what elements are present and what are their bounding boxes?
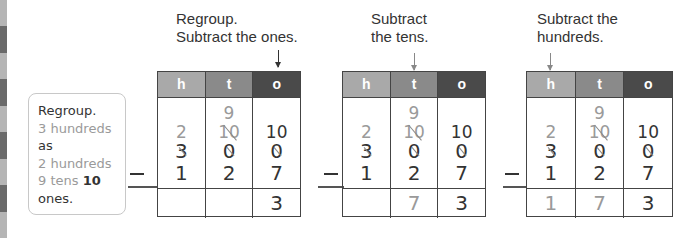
result-hundreds: 1 — [527, 193, 575, 213]
crossed-ones: 0 — [270, 141, 283, 161]
result-tens: 7 — [391, 193, 438, 213]
crossed-tens: 0 — [593, 141, 606, 161]
minus-sign — [324, 173, 338, 175]
header-tens: t — [391, 72, 439, 97]
hundreds-column: 2 3 1 — [158, 98, 206, 188]
down-arrow-icon — [414, 53, 415, 70]
ones-column: 10 0 7 — [624, 98, 672, 188]
decorative-side-stripe — [0, 0, 7, 238]
step-1-caption: Regroup. Subtract the ones. — [176, 10, 298, 46]
header-ones: o — [253, 72, 300, 97]
header-hundreds: h — [158, 72, 206, 97]
header-tens: t — [576, 72, 625, 97]
subtrahend-tens: 2 — [576, 163, 624, 183]
crossed-hundreds: 3 — [544, 141, 557, 161]
header-tens: t — [206, 72, 254, 97]
sum-rule-line — [318, 186, 344, 188]
place-value-table-step-3: h t o 2 3 1 9 10 0 2 10 0 7 1 7 3 — [526, 71, 673, 217]
note-line: Regroup. — [38, 102, 125, 120]
header-hundreds: h — [527, 72, 576, 97]
subtrahend-hundreds: 1 — [158, 163, 205, 183]
minus-sign — [505, 173, 519, 175]
subtrahend-ones: 7 — [624, 163, 672, 183]
subtrahend-tens: 2 — [391, 163, 438, 183]
caption-line: Subtract — [371, 10, 429, 28]
caption-line: Subtract the ones. — [176, 28, 298, 46]
tens-column: 9 10 0 2 — [576, 98, 625, 188]
subtrahend-hundreds: 1 — [527, 163, 575, 183]
header-hundreds: h — [343, 72, 391, 97]
step-3-caption: Subtract the hundreds. — [537, 10, 618, 46]
tens-column: 9 10 0 2 — [391, 98, 439, 188]
regroup-tens-top: 9 — [576, 103, 624, 123]
result-ones: 3 — [624, 193, 672, 213]
sum-rule-line — [503, 186, 527, 188]
down-arrow-icon — [278, 50, 279, 67]
minus-sign — [130, 173, 144, 175]
regroup-tens-top: 9 — [391, 103, 438, 123]
crossed-hundreds: 3 — [360, 141, 373, 161]
place-value-table-step-1: h t o 2 3 1 9 10 0 2 10 0 7 3 — [157, 71, 301, 217]
crossed-ones: 0 — [455, 141, 468, 161]
crossed-tens: 0 — [408, 141, 421, 161]
subtrahend-ones: 7 — [438, 163, 485, 183]
note-text-ten-ones: 10 — [83, 173, 101, 188]
note-line: 2 hundreds — [38, 155, 125, 173]
note-line: ones. — [38, 190, 125, 208]
hundreds-column: 2 3 1 — [343, 98, 391, 188]
place-value-table-step-2: h t o 2 3 1 9 10 0 2 10 0 7 7 3 — [342, 71, 486, 217]
regroup-tens-top: 9 — [206, 103, 253, 123]
result-tens: 7 — [576, 193, 624, 213]
down-arrow-icon — [550, 53, 551, 70]
note-line: as — [38, 137, 125, 155]
caption-line: the tens. — [371, 28, 429, 46]
ones-column: 10 0 7 — [253, 98, 300, 188]
header-ones: o — [624, 72, 672, 97]
caption-line: Regroup. — [176, 10, 298, 28]
note-line: 3 hundreds — [38, 120, 125, 138]
result-ones: 3 — [253, 193, 300, 213]
ones-column: 10 0 7 — [438, 98, 485, 188]
crossed-ones: 0 — [642, 141, 655, 161]
note-text-tens: 9 tens — [38, 173, 83, 188]
caption-line: hundreds. — [537, 28, 618, 46]
caption-line: Subtract the — [537, 10, 618, 28]
regroup-note-box: Regroup. 3 hundreds as 2 hundreds 9 tens… — [28, 93, 126, 215]
crossed-tens: 0 — [223, 141, 236, 161]
sum-rule-line — [128, 186, 158, 188]
crossed-hundreds: 3 — [175, 141, 188, 161]
result-ones: 3 — [438, 193, 485, 213]
tens-column: 9 10 0 2 — [206, 98, 254, 188]
note-line: 9 tens 10 — [38, 172, 125, 190]
subtrahend-ones: 7 — [253, 163, 300, 183]
subtrahend-tens: 2 — [206, 163, 253, 183]
subtrahend-hundreds: 1 — [343, 163, 390, 183]
hundreds-column: 2 3 1 — [527, 98, 576, 188]
header-ones: o — [438, 72, 485, 97]
step-2-caption: Subtract the tens. — [371, 10, 429, 46]
